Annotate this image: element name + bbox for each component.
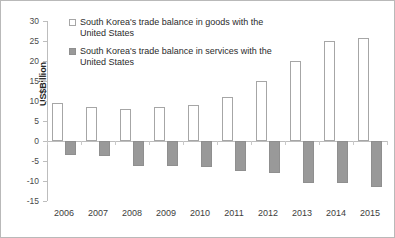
- x-axis-tick-mark: [47, 141, 48, 145]
- y-axis-tick-mark: [43, 161, 47, 162]
- open-square-swatch-icon: [69, 19, 76, 26]
- x-axis-tick-mark: [251, 141, 252, 145]
- bar-services: [269, 141, 280, 173]
- bar-services: [201, 141, 212, 167]
- y-axis-tick-label: 20: [13, 57, 39, 66]
- y-axis-tick-mark: [43, 181, 47, 182]
- bar-services: [167, 141, 178, 166]
- x-axis-tick-mark: [319, 141, 320, 145]
- x-axis-tick-mark: [285, 141, 286, 145]
- y-axis-tick-mark: [43, 101, 47, 102]
- bar-goods: [188, 105, 199, 141]
- chart-container: US$Billion 302520151050-5-10-15 20062007…: [0, 0, 395, 238]
- bar-goods: [154, 107, 165, 141]
- bar-goods: [222, 97, 233, 141]
- x-axis-tick-label: 2008: [115, 209, 149, 218]
- x-axis-tick-label: 2012: [251, 209, 285, 218]
- y-axis-tick-mark: [43, 81, 47, 82]
- y-axis-tick-label: -10: [13, 177, 39, 186]
- bar-services: [235, 141, 246, 171]
- legend-label-line1: South Korea's trade balance in: [80, 46, 203, 56]
- x-axis-tick-mark: [353, 141, 354, 145]
- x-axis-tick-label: 2014: [319, 209, 353, 218]
- bar-services: [99, 141, 110, 156]
- y-axis-tick-label: -5: [13, 157, 39, 166]
- filled-square-swatch-icon: [69, 48, 76, 55]
- x-axis-tick-mark: [217, 141, 218, 145]
- bar-goods: [120, 109, 131, 141]
- x-axis-tick-mark: [81, 141, 82, 145]
- y-axis-tick-labels: 302520151050-5-10-15: [13, 21, 39, 201]
- x-axis-tick-label: 2011: [217, 209, 251, 218]
- y-axis-tick-mark: [43, 201, 47, 202]
- y-axis-tick-label: -15: [13, 197, 39, 206]
- y-axis-tick-mark: [43, 61, 47, 62]
- x-axis-tick-mark: [115, 141, 116, 145]
- x-axis-tick-mark: [149, 141, 150, 145]
- bar-goods: [324, 41, 335, 141]
- x-axis-tick-labels: 2006200720082009201020112012201320142015: [47, 209, 387, 225]
- y-axis-tick-label: 30: [13, 17, 39, 26]
- bar-goods: [358, 38, 369, 141]
- y-axis-tick-label: 0: [13, 137, 39, 146]
- legend-label: South Korea's trade balance in goods wit…: [80, 17, 280, 39]
- legend-item: South Korea's trade balance in services …: [69, 46, 299, 68]
- legend-item: South Korea's trade balance in goods wit…: [69, 17, 299, 39]
- y-axis-tick-label: 25: [13, 37, 39, 46]
- legend-label: South Korea's trade balance in services …: [80, 46, 280, 68]
- x-axis-tick-label: 2006: [47, 209, 81, 218]
- bar-services: [133, 141, 144, 166]
- y-axis-tick-mark: [43, 41, 47, 42]
- bar-services: [303, 141, 314, 183]
- x-axis-tick-label: 2007: [81, 209, 115, 218]
- y-axis-tick-mark: [43, 21, 47, 22]
- bar-services: [337, 141, 348, 183]
- x-axis-tick-label: 2013: [285, 209, 319, 218]
- legend-label-line1: South Korea's trade balance in goods: [80, 17, 230, 27]
- y-axis-line: [47, 21, 48, 201]
- x-axis-tick-mark: [387, 141, 388, 145]
- y-axis-tick-label: 10: [13, 97, 39, 106]
- bar-goods: [86, 107, 97, 141]
- chart-legend: South Korea's trade balance in goods wit…: [69, 17, 299, 75]
- x-axis-tick-mark: [183, 141, 184, 145]
- x-axis-tick-label: 2009: [149, 209, 183, 218]
- bar-services: [65, 141, 76, 155]
- y-axis-tick-mark: [43, 121, 47, 122]
- y-axis-tick-label: 15: [13, 77, 39, 86]
- bar-goods: [52, 103, 63, 141]
- y-axis-tick-label: 5: [13, 117, 39, 126]
- bar-services: [371, 141, 382, 187]
- x-axis-tick-label: 2010: [183, 209, 217, 218]
- bar-goods: [256, 81, 267, 141]
- x-axis-tick-label: 2015: [353, 209, 387, 218]
